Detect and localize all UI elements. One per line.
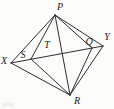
segment-PY: [55, 15, 103, 46]
vertex-label-P: P: [56, 1, 63, 12]
vertex-label-R: R: [73, 95, 80, 106]
diagram-canvas: PXYRSTQ: [0, 0, 114, 109]
vertex-label-Y: Y: [104, 31, 111, 42]
vertex-label-S: S: [21, 49, 26, 60]
corner-smudge: [2, 103, 14, 106]
segment-QR: [70, 48, 92, 95]
vertex-label-T: T: [44, 39, 51, 50]
segment-YR: [70, 46, 103, 95]
vertex-label-X: X: [0, 55, 8, 66]
geometry-figure: PXYRSTQ: [0, 0, 114, 109]
vertex-label-Q: Q: [85, 36, 93, 47]
